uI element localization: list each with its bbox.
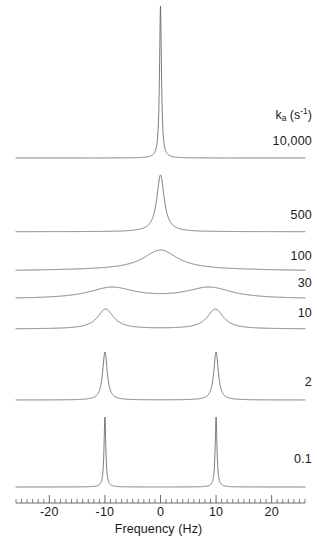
rate-constant-label: 500: [291, 208, 312, 222]
x-axis-tick-label: -10: [96, 505, 115, 519]
spectra-plot: [0, 0, 317, 541]
x-axis-tick-label: -20: [40, 505, 59, 519]
rate-constant-label: 30: [298, 276, 312, 290]
x-axis-tick-label: 10: [209, 505, 223, 519]
rate-header-units-close: ): [308, 108, 312, 122]
spectrum-trace: [16, 6, 305, 158]
rate-constant-header: ka (s-1): [275, 108, 312, 122]
spectrum-trace: [16, 287, 305, 298]
rate-header-units-exponent: -1: [300, 106, 308, 116]
spectrum-trace: [16, 309, 305, 329]
rate-constant-label: 0.1: [294, 452, 312, 466]
rate-constant-label: 10,000: [273, 134, 312, 148]
x-axis-title: Frequency (Hz): [0, 522, 317, 536]
x-axis-tick-label: 0: [157, 505, 164, 519]
rate-constant-label: 100: [291, 249, 312, 263]
rate-header-units-open: (s: [290, 108, 300, 122]
x-axis-tick-label: 20: [264, 505, 278, 519]
rate-header-subscript: a: [282, 113, 287, 123]
rate-constant-label: 10: [298, 306, 312, 320]
spectrum-trace: [16, 175, 305, 232]
spectrum-trace: [16, 417, 305, 487]
nmr-exchange-lineshape-figure: ka (s-1) 10,000500100301020.1 -20-100102…: [0, 0, 317, 541]
spectrum-trace: [16, 352, 305, 400]
spectrum-trace: [16, 250, 305, 270]
rate-header-symbol: k: [275, 108, 281, 122]
rate-constant-label: 2: [305, 375, 312, 389]
